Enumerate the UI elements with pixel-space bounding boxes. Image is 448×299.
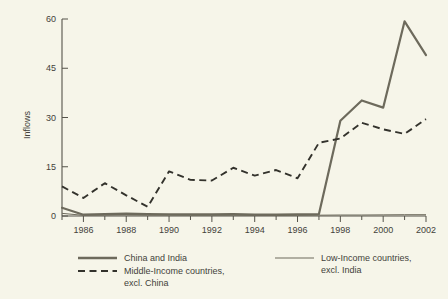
y-tick-label: 30	[46, 113, 56, 123]
legend-label-low-income-line1: Low-Income countries,	[321, 253, 412, 263]
legend-label-china-india: China and India	[124, 253, 187, 263]
line-chart: 015304560 198619881990199219941996199820…	[0, 0, 448, 299]
x-tick-label: 1994	[245, 225, 265, 235]
y-axis-tick-labels: 015304560	[46, 14, 56, 221]
x-axis-tick-labels: 198619881990199219941996199820002002	[73, 225, 436, 235]
x-tick-label: 1986	[73, 225, 93, 235]
legend-label-middle-income-line1: Middle-Income countries,	[124, 266, 225, 276]
y-tick-label: 15	[46, 162, 56, 172]
y-tick-label: 45	[46, 63, 56, 73]
legend-label-low-income-line2: excl. India	[321, 265, 362, 275]
y-tick-label: 0	[51, 211, 56, 221]
x-tick-label: 1998	[330, 225, 350, 235]
x-tick-label: 1996	[288, 225, 308, 235]
y-axis-title: Inflows	[22, 110, 32, 139]
legend-label-middle-income-line2: excl. China	[124, 278, 169, 288]
y-tick-label: 60	[46, 14, 56, 24]
x-tick-label: 2000	[373, 225, 393, 235]
chart-legend: China and India Middle-Income countries,…	[78, 253, 412, 288]
x-tick-label: 1990	[159, 225, 179, 235]
series-line-china-india	[62, 21, 426, 214]
series-line-middle-income	[62, 119, 426, 207]
x-axis-ticks	[62, 216, 426, 222]
x-tick-label: 1988	[116, 225, 136, 235]
x-tick-label: 2002	[416, 225, 436, 235]
x-tick-label: 1992	[202, 225, 222, 235]
chart-figure: 015304560 198619881990199219941996199820…	[0, 0, 448, 299]
